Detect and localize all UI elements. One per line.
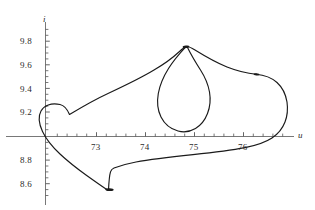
y-tick-label-8-6: 8.6 <box>20 179 32 189</box>
y-axis-label: i <box>43 14 46 24</box>
x-tick-label-73: 73 <box>91 142 100 152</box>
x-axis-label: u <box>298 130 303 140</box>
y-tick-label-9-4: 9.4 <box>20 84 32 94</box>
y-tick-label-9-2: 9.2 <box>20 107 32 117</box>
x-axis-ticks <box>57 132 282 136</box>
x-tick-label-75: 75 <box>189 142 198 152</box>
plot-canvas <box>0 0 315 210</box>
phase-plot-figure: 9.8 9.6 9.4 9.2 8.8 8.6 73 74 75 76 i u <box>0 0 315 210</box>
y-tick-label-9-8: 9.8 <box>20 36 32 46</box>
y-tick-label-9-6: 9.6 <box>20 60 32 70</box>
y-axis-ticks <box>46 29 50 195</box>
orbit-vertex-markers <box>105 45 259 191</box>
y-tick-label-8-8: 8.8 <box>20 155 32 165</box>
orbit-outer-curve <box>39 46 287 190</box>
orbit-inner-curve <box>158 47 211 132</box>
x-tick-label-76: 76 <box>238 142 247 152</box>
x-tick-label-74: 74 <box>140 142 149 152</box>
